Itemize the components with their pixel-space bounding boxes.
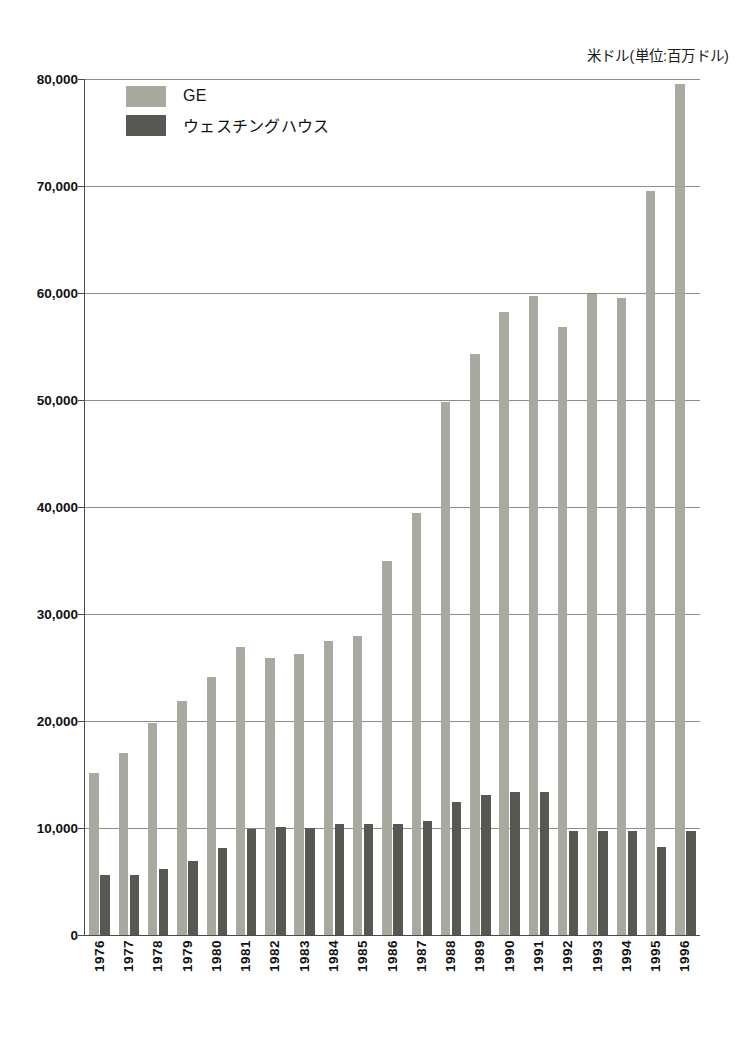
bar-ge <box>353 636 363 935</box>
x-tick-label: 1992 <box>561 940 575 972</box>
bar-group <box>524 79 553 935</box>
bar-westinghouse <box>569 831 579 935</box>
y-tick-label: 60,000 <box>0 286 78 301</box>
bar-westinghouse <box>628 831 638 935</box>
bar-ge <box>470 354 480 935</box>
bar-group <box>407 79 436 935</box>
unit-caption: 米ドル(単位:百万ドル) <box>587 44 729 65</box>
legend-swatch-westinghouse <box>126 115 166 136</box>
bar-westinghouse <box>100 875 110 935</box>
chart-legend: GE ウェスチングハウス <box>126 85 330 143</box>
y-tick-mark <box>78 828 85 829</box>
bar-group <box>144 79 173 935</box>
bar-group <box>671 79 700 935</box>
x-tick-label: 1978 <box>151 940 165 972</box>
y-tick-mark <box>78 935 85 936</box>
bar-ge <box>646 191 656 935</box>
y-tick-mark <box>78 79 85 80</box>
bar-ge <box>617 298 627 935</box>
bar-ge <box>382 561 392 936</box>
bar-group <box>85 79 114 935</box>
x-tick-label: 1991 <box>532 940 546 972</box>
y-tick-mark <box>78 186 85 187</box>
bar-group <box>290 79 319 935</box>
legend-swatch-ge <box>126 86 166 107</box>
x-tick-label: 1988 <box>444 940 458 972</box>
bar-group <box>466 79 495 935</box>
bar-westinghouse <box>657 847 667 935</box>
bar-ge <box>499 312 509 935</box>
bar-group <box>349 79 378 935</box>
x-tick-label: 1987 <box>415 940 429 972</box>
y-tick-label: 50,000 <box>0 393 78 408</box>
bar-ge <box>265 658 275 935</box>
bar-ge <box>324 641 334 935</box>
y-tick-mark <box>78 400 85 401</box>
bars-layer <box>85 79 700 935</box>
x-tick-label: 1984 <box>327 940 341 972</box>
x-tick-label: 1977 <box>122 940 136 972</box>
y-tick-label: 70,000 <box>0 179 78 194</box>
y-tick-label: 0 <box>0 928 78 943</box>
bar-chart: 米ドル(単位:百万ドル) 010,00020,00030,00040,00050… <box>0 0 743 1057</box>
bar-westinghouse <box>276 827 286 935</box>
x-tick-label: 1980 <box>210 940 224 972</box>
y-tick-label: 10,000 <box>0 821 78 836</box>
bar-westinghouse <box>247 829 257 935</box>
x-tick-label: 1994 <box>620 940 634 972</box>
bar-westinghouse <box>188 861 198 935</box>
bar-westinghouse <box>335 824 345 935</box>
bar-ge <box>441 402 451 935</box>
x-tick-label: 1981 <box>239 940 253 972</box>
y-tick-mark <box>78 293 85 294</box>
bar-ge <box>119 753 129 935</box>
bar-ge <box>412 513 422 935</box>
bar-group <box>114 79 143 935</box>
x-tick-label: 1983 <box>298 940 312 972</box>
x-tick-label: 1985 <box>356 940 370 972</box>
bar-westinghouse <box>393 824 403 935</box>
bar-group <box>261 79 290 935</box>
legend-label-westinghouse: ウェスチングハウス <box>183 113 330 137</box>
plot-area <box>85 79 700 935</box>
bar-westinghouse <box>159 869 169 935</box>
x-tick-label: 1982 <box>268 940 282 972</box>
bar-group <box>612 79 641 935</box>
x-tick-label: 1976 <box>93 940 107 972</box>
y-tick-label: 40,000 <box>0 500 78 515</box>
bar-westinghouse <box>598 831 608 935</box>
bar-group <box>554 79 583 935</box>
legend-item-westinghouse: ウェスチングハウス <box>126 114 330 136</box>
x-tick-label: 1979 <box>181 940 195 972</box>
bar-group <box>202 79 231 935</box>
bar-group <box>378 79 407 935</box>
bar-westinghouse <box>686 831 696 935</box>
x-tick-label: 1996 <box>678 940 692 972</box>
y-tick-mark <box>78 614 85 615</box>
x-tick-label: 1990 <box>503 940 517 972</box>
bar-westinghouse <box>481 795 491 935</box>
bar-ge <box>236 647 246 935</box>
bar-ge <box>89 773 99 935</box>
bar-group <box>173 79 202 935</box>
legend-label-ge: GE <box>183 87 207 105</box>
bar-ge <box>177 701 187 935</box>
legend-item-ge: GE <box>126 85 330 107</box>
bar-westinghouse <box>364 824 374 935</box>
x-tick-label: 1993 <box>591 940 605 972</box>
bar-ge <box>294 654 304 935</box>
bar-group <box>231 79 260 935</box>
y-tick-mark <box>78 507 85 508</box>
bar-ge <box>148 723 158 935</box>
y-tick-label: 80,000 <box>0 72 78 87</box>
bar-group <box>319 79 348 935</box>
bar-westinghouse <box>423 821 433 935</box>
bar-westinghouse <box>510 792 520 935</box>
bar-group <box>583 79 612 935</box>
bar-westinghouse <box>452 802 462 935</box>
bar-group <box>641 79 670 935</box>
bar-westinghouse <box>540 792 550 935</box>
y-tick-mark <box>78 721 85 722</box>
x-tick-label: 1986 <box>386 940 400 972</box>
bar-ge <box>675 84 685 935</box>
